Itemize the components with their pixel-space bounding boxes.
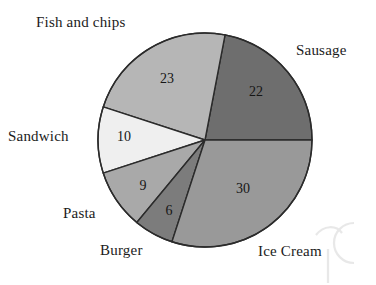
slice-value-sandwich: 10: [117, 129, 131, 144]
slice-value-ice-cream: 30: [236, 181, 250, 196]
slice-value-pasta: 9: [140, 178, 147, 193]
category-label-sausage: Sausage: [296, 42, 347, 59]
category-label-burger: Burger: [100, 242, 143, 259]
slice-value-burger: 6: [166, 203, 173, 218]
category-label-pasta: Pasta: [63, 205, 96, 222]
category-label-ice-cream: Ice Cream: [258, 243, 322, 260]
slice-value-sausage: 22: [249, 84, 263, 99]
category-label-fish-and-chips: Fish and chips: [36, 14, 125, 31]
category-label-sandwich: Sandwich: [8, 128, 69, 145]
slice-value-fish-and-chips: 23: [160, 71, 174, 86]
